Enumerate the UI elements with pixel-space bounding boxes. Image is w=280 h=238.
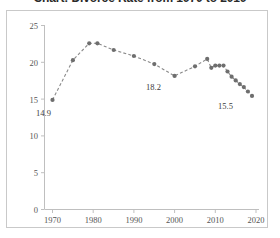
y-tick-label-10: 10 xyxy=(16,131,38,141)
x-tick-label-1990: 1990 xyxy=(117,215,151,225)
x-tick-label-2020: 2020 xyxy=(239,215,273,225)
data-label-2019: 15.5 xyxy=(218,101,233,111)
y-tick-label-25: 25 xyxy=(16,21,38,31)
data-label-1970: 14.9 xyxy=(36,108,51,118)
chart-frame xyxy=(6,10,268,228)
y-tick-label-20: 20 xyxy=(16,58,38,68)
y-tick-label-5: 5 xyxy=(16,168,38,178)
y-tick-label-15: 15 xyxy=(16,95,38,105)
data-label-2000: 18.2 xyxy=(146,82,161,92)
x-tick-label-2000: 2000 xyxy=(158,215,192,225)
x-tick-label-2010: 2010 xyxy=(198,215,232,225)
chart-figure: Chart: Divorce Rate from 1970 to 2019 xyxy=(0,0,280,238)
x-tick-label-1980: 1980 xyxy=(76,215,110,225)
y-tick-label-0: 0 xyxy=(16,205,38,215)
chart-title: Chart: Divorce Rate from 1970 to 2019 xyxy=(0,0,280,5)
x-tick-label-1970: 1970 xyxy=(36,215,70,225)
